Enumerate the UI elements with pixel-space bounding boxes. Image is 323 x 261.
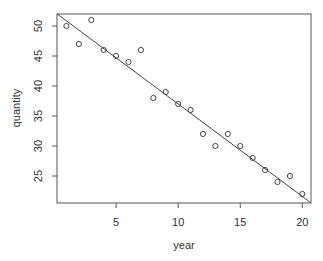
x-axis-ticks: 5101520 bbox=[113, 203, 308, 228]
y-axis-ticks: 253035404550 bbox=[32, 20, 57, 182]
y-axis-label: quantity bbox=[10, 88, 22, 127]
data-point bbox=[238, 143, 243, 148]
data-point bbox=[287, 173, 292, 178]
data-point bbox=[213, 143, 218, 148]
data-point bbox=[275, 179, 280, 184]
x-tick-label: 20 bbox=[296, 216, 308, 228]
data-point bbox=[138, 47, 143, 52]
data-point bbox=[89, 17, 94, 22]
data-point bbox=[188, 107, 193, 112]
data-point bbox=[200, 131, 205, 136]
data-point bbox=[225, 131, 230, 136]
y-tick-label: 25 bbox=[32, 170, 44, 182]
x-tick-label: 5 bbox=[113, 216, 119, 228]
x-axis-label: year bbox=[173, 239, 195, 251]
regression-line bbox=[57, 14, 311, 203]
scatter-plot: 5101520 253035404550 year quantity bbox=[0, 0, 323, 261]
y-tick-label: 45 bbox=[32, 50, 44, 62]
data-point bbox=[76, 41, 81, 46]
y-tick-label: 35 bbox=[32, 110, 44, 122]
data-point bbox=[126, 59, 131, 64]
x-tick-label: 10 bbox=[172, 216, 184, 228]
data-point bbox=[151, 95, 156, 100]
y-tick-label: 30 bbox=[32, 140, 44, 152]
data-points bbox=[64, 17, 305, 196]
x-tick-label: 15 bbox=[234, 216, 246, 228]
data-point bbox=[163, 89, 168, 94]
data-point bbox=[64, 23, 69, 28]
y-tick-label: 50 bbox=[32, 20, 44, 32]
y-tick-label: 40 bbox=[32, 80, 44, 92]
